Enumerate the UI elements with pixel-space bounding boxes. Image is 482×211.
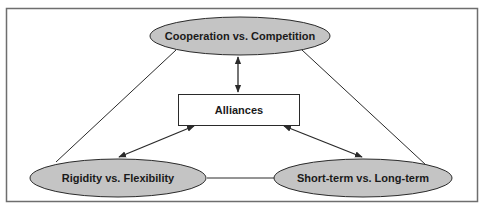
node-short-term-vs-long-term: Short-term vs. Long-term: [274, 159, 452, 197]
node-label: Short-term vs. Long-term: [297, 172, 429, 184]
node-rigidity-vs-flexibility: Rigidity vs. Flexibility: [30, 159, 206, 197]
node-label: Rigidity vs. Flexibility: [62, 172, 175, 184]
center-label: Alliances: [215, 104, 263, 116]
node-label: Cooperation vs. Competition: [165, 30, 316, 42]
node-cooperation-vs-competition: Cooperation vs. Competition: [150, 17, 330, 55]
diagram-canvas: Cooperation vs. Competition Alliances Ri…: [0, 0, 482, 211]
node-alliances: Alliances: [179, 95, 300, 126]
